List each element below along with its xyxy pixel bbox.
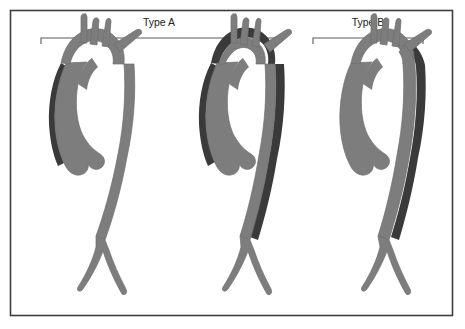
figure-canvas: Type A Type B	[0, 0, 465, 329]
type-b-label: Type B	[352, 16, 385, 28]
panel-2-brachiocephalic-artery	[231, 14, 237, 43]
type-a-label: Type A	[143, 16, 175, 28]
panel-1-brachiocephalic-artery	[81, 14, 87, 43]
panel-3-brachiocephalic-artery	[371, 14, 377, 43]
aortic-dissection-figure: Type A Type B	[0, 0, 465, 329]
